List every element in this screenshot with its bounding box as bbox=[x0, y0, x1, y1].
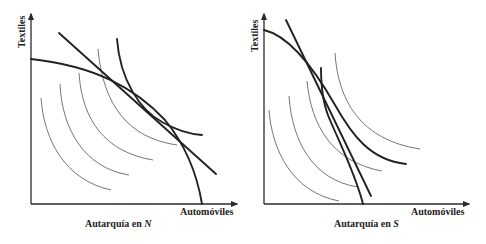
price-line bbox=[286, 20, 371, 196]
indifference-curve-4 bbox=[335, 53, 420, 149]
production-frontier bbox=[264, 30, 406, 164]
indifference-curve-2 bbox=[289, 96, 358, 187]
production-frontier bbox=[31, 59, 202, 204]
panel-north: Textiles Automóviles Autarquía en N bbox=[16, 14, 237, 229]
price-line bbox=[59, 33, 216, 174]
indifference-curve-3 bbox=[79, 73, 153, 160]
y-axis-label: Textiles bbox=[16, 15, 27, 48]
y-axis-label: Textiles bbox=[249, 19, 260, 52]
caption-north: Autarquía en N bbox=[85, 218, 152, 229]
x-axis-label: Automóviles bbox=[411, 206, 464, 217]
x-axis-label: Automóviles bbox=[180, 206, 233, 217]
indifference-curve-1 bbox=[269, 110, 339, 201]
indifference-curve-2 bbox=[60, 84, 129, 175]
indifference-curve-tangent bbox=[117, 39, 202, 135]
panel-south: Textiles Automóviles Autarquía en S bbox=[249, 14, 469, 229]
autarky-diagrams: Textiles Automóviles Autarquía en N Text… bbox=[0, 0, 486, 244]
indifference-curve-1 bbox=[41, 98, 111, 190]
caption-south: Autarquía en S bbox=[334, 218, 399, 229]
